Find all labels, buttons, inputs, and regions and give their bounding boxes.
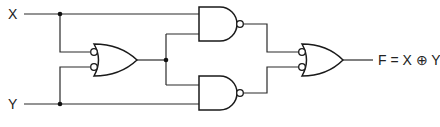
logic-circuit-diagram: X Y F = X ⊕ Y <box>0 0 440 127</box>
output-label: F = X ⊕ Y <box>378 52 440 68</box>
junction-dot-y <box>58 102 63 107</box>
inverter-bubble <box>237 21 244 28</box>
wire-x-branch <box>60 14 90 52</box>
or-gate-2 <box>299 44 343 76</box>
inverter-bubble <box>237 90 244 97</box>
wire-nand-bottom-out <box>243 67 299 93</box>
inverter-bubble <box>91 64 98 71</box>
inverter-bubble <box>91 49 98 56</box>
input-label-x: X <box>8 6 18 22</box>
inverter-bubble <box>299 64 306 71</box>
input-label-y: Y <box>8 96 18 112</box>
or-gate-1 <box>91 44 137 76</box>
wire-nand-top-out <box>243 24 299 52</box>
nand-gate-bottom <box>199 76 243 110</box>
junction-dot-x <box>58 12 63 17</box>
wire-y-branch <box>60 67 90 104</box>
junction-dot-mid <box>164 58 169 63</box>
inverter-bubble <box>299 49 306 56</box>
nand-gate-top <box>199 7 243 41</box>
